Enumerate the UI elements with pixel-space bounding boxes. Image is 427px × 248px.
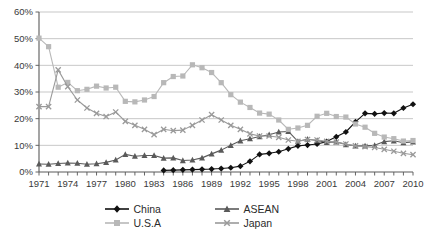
svg-text:2001: 2001 [316,178,337,189]
svg-text:1995: 1995 [259,178,280,189]
japan-key-icon [214,217,240,229]
svg-text:1977: 1977 [86,178,107,189]
svg-text:1989: 1989 [201,178,222,189]
svg-text:1974: 1974 [57,178,78,189]
legend-item-china[interactable]: China [104,203,214,215]
china-key-icon [104,203,130,215]
svg-text:1983: 1983 [144,178,165,189]
svg-text:10%: 10% [14,140,34,151]
asean-key-icon [214,203,240,215]
svg-text:1971: 1971 [28,178,49,189]
svg-text:0%: 0% [19,166,33,177]
series-usa [36,36,415,144]
svg-text:20%: 20% [14,113,34,124]
svg-text:2010: 2010 [402,178,423,189]
legend-label-china: China [134,203,161,215]
series-asean [36,128,416,167]
plot-area: 0%10%20%30%40%50%60% 1971197419771980198… [0,0,427,200]
y-axis-tick-labels: 0%10%20%30%40%50%60% [14,6,34,177]
svg-text:1980: 1980 [115,178,136,189]
legend-item-asean[interactable]: ASEAN [214,203,324,215]
legend-label-usa: U.S.A [134,217,161,229]
svg-text:2004: 2004 [345,178,366,189]
series-japan [36,67,415,157]
x-axis-tick-labels: 1971197419771980198319861989199219951998… [28,178,423,189]
plot-svg: 0%10%20%30%40%50%60% 1971197419771980198… [0,0,427,200]
legend-label-japan: Japan [244,217,273,229]
svg-text:50%: 50% [14,33,34,44]
legend-row-2: U.S.A Japan [104,217,324,229]
svg-text:30%: 30% [14,86,34,97]
line-chart: 0%10%20%30%40%50%60% 1971197419771980198… [0,0,427,248]
svg-text:2007: 2007 [374,178,395,189]
legend-row-1: China ASEAN [104,203,324,215]
legend-item-usa[interactable]: U.S.A [104,217,214,229]
svg-text:1992: 1992 [230,178,251,189]
svg-text:1986: 1986 [172,178,193,189]
svg-text:1998: 1998 [287,178,308,189]
series-layer [36,36,416,174]
usa-key-icon [104,217,130,229]
series-china [161,101,417,173]
svg-text:60%: 60% [14,6,34,17]
legend-label-asean: ASEAN [244,203,280,215]
chart-legend: China ASEAN U.S.A [0,198,427,248]
svg-text:40%: 40% [14,60,34,71]
legend-item-japan[interactable]: Japan [214,217,324,229]
